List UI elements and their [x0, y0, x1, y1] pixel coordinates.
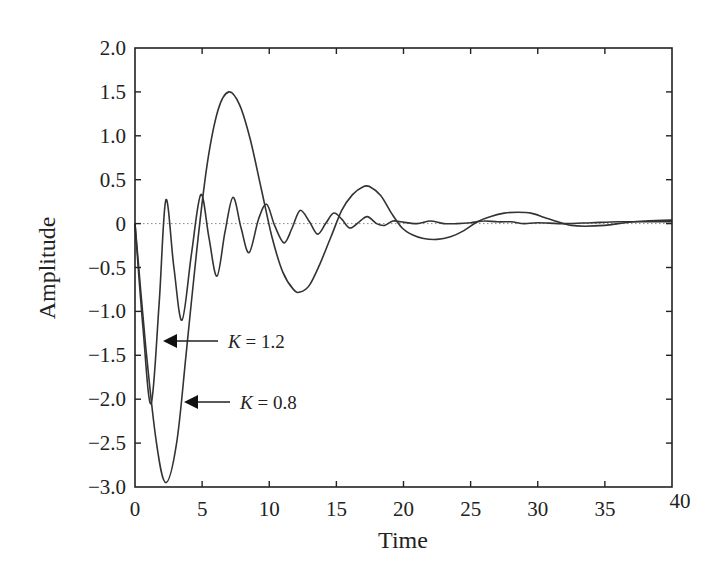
x-axis-ticks: 0510152025303540: [130, 48, 691, 521]
y-axis-ticks: 2.01.51.00.50−0.5−1.0−1.5−2.0−2.5−3.0: [88, 36, 672, 499]
y-tick-label: −2.5: [88, 431, 126, 455]
chart: 0510152025303540 2.01.51.00.50−0.5−1.0−1…: [0, 0, 726, 578]
y-axis-title: Amplitude: [34, 217, 60, 320]
annotation-label: K = 0.8: [239, 392, 297, 413]
series-group: [135, 92, 672, 483]
y-tick-label: 1.5: [100, 80, 126, 104]
y-tick-label: −2.0: [88, 387, 126, 411]
x-tick-label: 20: [393, 497, 414, 521]
plot-frame: [135, 48, 672, 487]
y-tick-label: −3.0: [88, 475, 126, 499]
x-axis-title: Time: [378, 527, 428, 553]
x-tick-label: 35: [594, 497, 615, 521]
y-tick-label: −1.5: [88, 343, 126, 367]
y-tick-label: −1.0: [88, 299, 126, 323]
y-tick-label: −0.5: [88, 256, 126, 280]
x-tick-label: 25: [460, 497, 481, 521]
y-tick-label: 0: [116, 212, 127, 236]
x-tick-label: 40: [670, 489, 691, 513]
x-tick-label: 0: [130, 497, 141, 521]
x-tick-label: 10: [259, 497, 280, 521]
arrow-left-icon: [184, 395, 198, 409]
x-tick-label: 30: [527, 497, 548, 521]
x-tick-label: 5: [197, 497, 208, 521]
annotations: K = 1.2K = 0.8: [163, 331, 297, 413]
y-tick-label: 2.0: [100, 36, 126, 60]
annotation-label: K = 1.2: [227, 331, 285, 352]
x-tick-label: 15: [326, 497, 347, 521]
y-tick-label: 1.0: [100, 124, 126, 148]
arrow-left-icon: [163, 334, 177, 348]
series-line-k-0-8: [135, 92, 672, 483]
y-tick-label: 0.5: [100, 168, 126, 192]
